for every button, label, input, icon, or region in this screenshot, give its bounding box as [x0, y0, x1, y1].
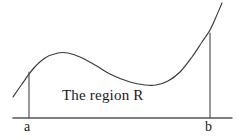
region-caption: The region R — [62, 88, 144, 103]
function-curve — [13, 3, 222, 97]
axis-label-b: b — [205, 120, 212, 134]
axis-label-a: a — [24, 120, 30, 134]
curve-group — [13, 3, 222, 97]
region-under-curve-figure: The region R a b — [0, 0, 239, 140]
figure-canvas — [0, 0, 239, 140]
